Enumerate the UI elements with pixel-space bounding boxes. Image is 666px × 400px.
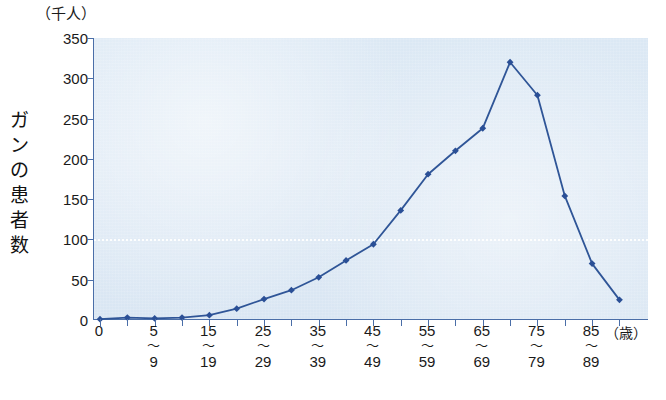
x-tick-label-tilde: 〜 [147, 339, 160, 353]
x-tick-label-lower: 29 [255, 353, 272, 370]
y-axis-title-char-0: ガ [6, 108, 32, 133]
x-tick-label-55: 55〜59 [419, 322, 436, 370]
x-tick-label-tilde: 〜 [583, 339, 600, 353]
x-tick-label-lower: 89 [583, 353, 600, 370]
x-tick-label-upper: 25 [255, 322, 272, 339]
x-tick-label-tilde: 〜 [473, 339, 490, 353]
y-axis-title-char-1: ン [6, 133, 32, 158]
x-tick-label-upper: 45 [364, 322, 381, 339]
data-point-marker [288, 287, 295, 294]
x-tick-label-upper: 15 [200, 322, 217, 339]
y-tick-300 [87, 78, 94, 79]
data-point-marker [233, 305, 240, 312]
y-tick-label-350: 350 [63, 30, 88, 47]
y-tick-label-150: 150 [63, 191, 88, 208]
y-tick-350 [87, 38, 94, 39]
data-point-marker [261, 296, 268, 303]
x-tick-label-upper: 0 [95, 322, 103, 339]
x-tick-label-upper: 85 [583, 322, 600, 339]
y-tick-150 [87, 199, 94, 200]
x-tick-label-tilde: 〜 [200, 339, 217, 353]
x-tick-label-upper: 65 [473, 322, 490, 339]
series-polyline [100, 62, 620, 319]
x-tick-label-35: 35〜39 [309, 322, 326, 370]
y-axis-title-char-2: の [6, 158, 32, 183]
x-tick-label-0: 0 [95, 322, 103, 339]
x-tick-label-45: 45〜49 [364, 322, 381, 370]
x-tick-label-85: 85〜89 [583, 322, 600, 370]
x-tick-label-lower: 59 [419, 353, 436, 370]
data-point-marker [561, 193, 568, 200]
x-tick-label-65: 65〜69 [473, 322, 490, 370]
data-point-marker [206, 312, 213, 319]
y-tick-label-50: 50 [71, 271, 88, 288]
x-tick-label-tilde: 〜 [419, 339, 436, 353]
x-tick-label-15: 15〜19 [200, 322, 217, 370]
y-axis-title-char-3: 患 [6, 183, 32, 208]
x-tick-label-tilde: 〜 [309, 339, 326, 353]
x-tick-label-lower: 69 [473, 353, 490, 370]
x-tick-label-lower: 79 [528, 353, 545, 370]
y-tick-100 [87, 239, 94, 240]
x-tick-label-upper: 75 [528, 322, 545, 339]
x-tick-label-25: 25〜29 [255, 322, 272, 370]
y-tick-label-300: 300 [63, 70, 88, 87]
x-tick-label-lower: 19 [200, 353, 217, 370]
y-tick-200 [87, 159, 94, 160]
x-tick-label-upper: 5 [147, 322, 160, 339]
x-tick-label-tilde: 〜 [528, 339, 545, 353]
x-tick-label-tilde: 〜 [364, 339, 381, 353]
y-tick-label-250: 250 [63, 110, 88, 127]
x-tick-label-5: 5〜9 [147, 322, 160, 370]
cancer-patients-by-age-chart: （千人） ガンの患者数 050100150200250300350 05〜915… [0, 0, 666, 400]
x-tick-label-upper: 35 [309, 322, 326, 339]
x-tick-label-lower: 49 [364, 353, 381, 370]
y-axis-title: ガンの患者数 [6, 108, 32, 258]
y-axis-title-char-4: 者 [6, 208, 32, 233]
x-axis-tick-labels: 05〜915〜1925〜2935〜3945〜4955〜5965〜6975〜798… [0, 322, 666, 400]
y-axis-title-char-5: 数 [6, 233, 32, 258]
y-tick-250 [87, 119, 94, 120]
data-line-series [94, 38, 649, 320]
y-tick-label-200: 200 [63, 150, 88, 167]
x-tick-label-upper: 55 [419, 322, 436, 339]
x-tick-label-lower: 39 [309, 353, 326, 370]
x-tick-label-lower: 9 [147, 353, 160, 370]
y-tick-label-100: 100 [63, 231, 88, 248]
x-axis-unit-label: （歳） [605, 322, 647, 342]
plot-area [93, 38, 648, 320]
y-tick-50 [87, 280, 94, 281]
x-tick-label-75: 75〜79 [528, 322, 545, 370]
x-tick-label-tilde: 〜 [255, 339, 272, 353]
